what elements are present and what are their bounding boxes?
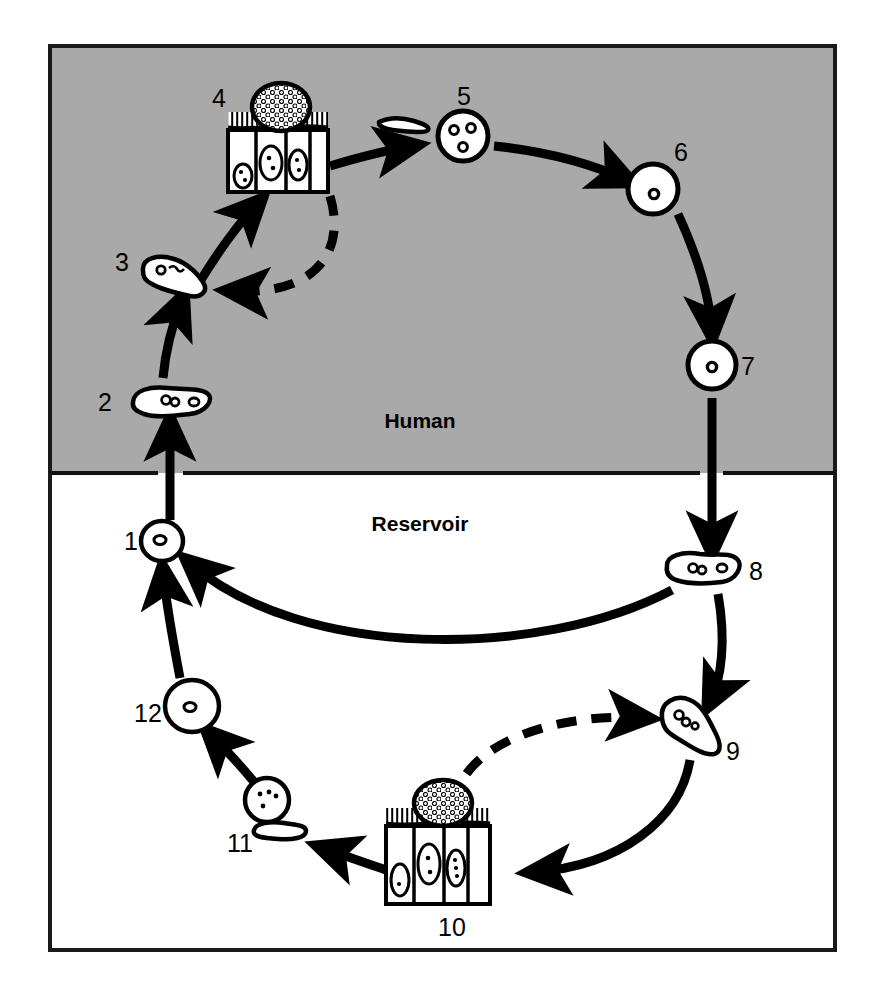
stage-2-trophozoite: [133, 388, 210, 417]
stage-label-11: 11: [227, 829, 253, 857]
stage-label-2: 2: [98, 388, 112, 416]
stage-label-4: 4: [212, 84, 226, 112]
stage-label-1: 1: [124, 527, 138, 555]
stage-label-6: 6: [674, 138, 688, 166]
stage-1-cyst: [141, 521, 183, 561]
stage-label-10: 10: [438, 913, 466, 941]
stage-6-cyst: [628, 164, 678, 214]
life-cycle-canvas: Human Reservoir 4 5 6 3 7 2 1 8 12 9 11 …: [0, 0, 877, 1001]
stage-7-cyst: [688, 341, 736, 389]
stage-label-12: 12: [134, 699, 162, 727]
stage-label-3: 3: [115, 248, 129, 276]
stage-label-9: 9: [726, 737, 740, 765]
stage-12-cyst: [165, 680, 219, 732]
stage-label-7: 7: [741, 352, 755, 380]
stage-8-trophozoite: [667, 553, 740, 583]
stage-label-5: 5: [457, 82, 471, 110]
stage-5-cyst: [438, 111, 488, 161]
zone-label-reservoir: Reservoir: [372, 512, 469, 535]
life-cycle-figure: Human Reservoir 4 5 6 3 7 2 1 8 12 9 11 …: [0, 0, 877, 1001]
zone-label-human: Human: [384, 409, 455, 432]
stage-label-8: 8: [749, 557, 763, 585]
